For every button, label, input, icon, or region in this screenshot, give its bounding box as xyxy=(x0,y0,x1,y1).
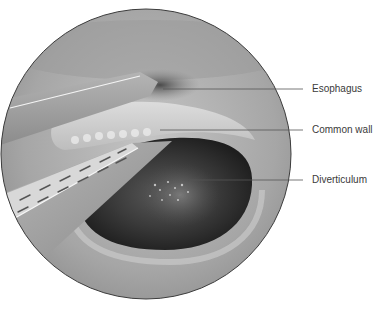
label-diverticulum: Diverticulum xyxy=(312,174,367,186)
endoscope-view-image xyxy=(0,0,376,310)
endoscopic-figure: Esophagus Common wall Diverticulum xyxy=(0,0,376,310)
label-esophagus: Esophagus xyxy=(312,83,362,95)
label-common-wall: Common wall xyxy=(312,124,373,136)
diverticulum-floor xyxy=(140,163,220,227)
